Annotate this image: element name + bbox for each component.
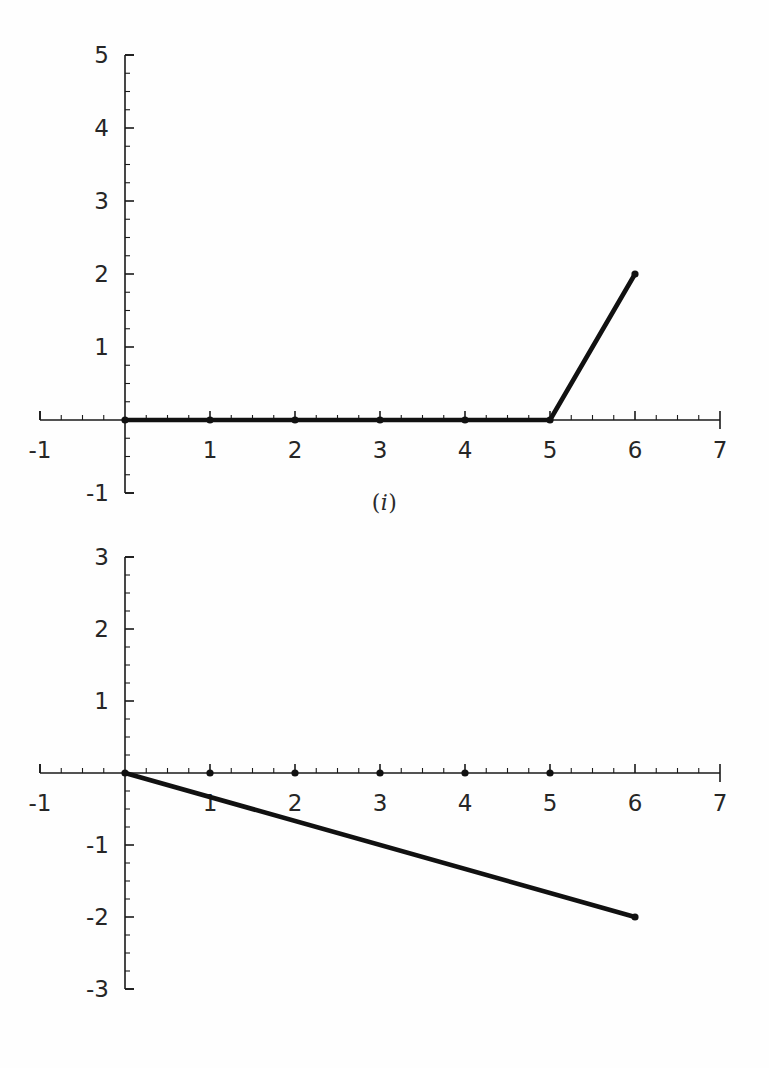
y-tick-label: 2 — [94, 616, 109, 642]
figure-ii: -11234567-3-2-1123 (ii) — [0, 520, 769, 1068]
data-point-marker — [206, 416, 213, 423]
x-tick-label: 6 — [628, 437, 643, 463]
x-tick-label-group: -11234567 — [29, 790, 728, 816]
data-point-marker — [121, 416, 128, 423]
data-point-marker — [206, 769, 213, 776]
y-tick-label: 1 — [94, 334, 109, 360]
data-point-marker — [291, 416, 298, 423]
axes-group — [40, 55, 720, 493]
y-tick-label-group: -112345 — [86, 42, 109, 506]
data-point-marker — [631, 913, 638, 920]
y-tick-label: 4 — [94, 115, 109, 141]
x-tick-label: 5 — [543, 790, 558, 816]
x-tick-label: 2 — [288, 437, 303, 463]
caption-open-paren: ( — [372, 490, 381, 515]
x-tick-label: 4 — [458, 437, 473, 463]
data-point-marker — [461, 416, 468, 423]
x-tick-label: 7 — [713, 790, 728, 816]
plot-ii-canvas: -11234567-3-2-1123 — [0, 520, 769, 1068]
x-tick-label: 4 — [458, 790, 473, 816]
x-tick-label: 3 — [373, 790, 388, 816]
data-point-marker — [546, 769, 553, 776]
x-tick-label: 2 — [288, 790, 303, 816]
figure-i-caption: (i) — [0, 490, 769, 515]
y-tick-label: -1 — [86, 832, 109, 858]
x-tick-label: -1 — [29, 437, 52, 463]
data-point-marker — [631, 270, 638, 277]
y-tick-label: 3 — [94, 544, 109, 570]
x-tick-label: 5 — [543, 437, 558, 463]
figure-page: -11234567-112345 (i) -11234567-3-2-1123 … — [0, 0, 769, 1068]
data-point-marker — [376, 416, 383, 423]
data-point-marker — [546, 416, 553, 423]
x-tick-label: 6 — [628, 790, 643, 816]
y-tick-label: -3 — [86, 976, 109, 1002]
figure-i: -11234567-112345 (i) — [0, 0, 769, 540]
x-tick-label: 3 — [373, 437, 388, 463]
y-tick-label: 5 — [94, 42, 109, 68]
caption-close-paren: ) — [388, 490, 397, 515]
x-tick-label-group: -11234567 — [29, 437, 728, 463]
x-tick-label: 1 — [203, 437, 218, 463]
data-series — [121, 270, 638, 423]
data-point-marker — [461, 769, 468, 776]
plot-i-canvas: -11234567-112345 — [0, 0, 769, 540]
y-tick-label: -2 — [86, 904, 109, 930]
data-point-marker — [121, 769, 128, 776]
y-tick-label: 2 — [94, 261, 109, 287]
y-tick-label: 1 — [94, 688, 109, 714]
data-point-marker — [291, 769, 298, 776]
x-tick-label: 7 — [713, 437, 728, 463]
y-tick-label: 3 — [94, 188, 109, 214]
data-polyline — [125, 274, 635, 420]
data-point-marker — [376, 769, 383, 776]
x-tick-label: -1 — [29, 790, 52, 816]
